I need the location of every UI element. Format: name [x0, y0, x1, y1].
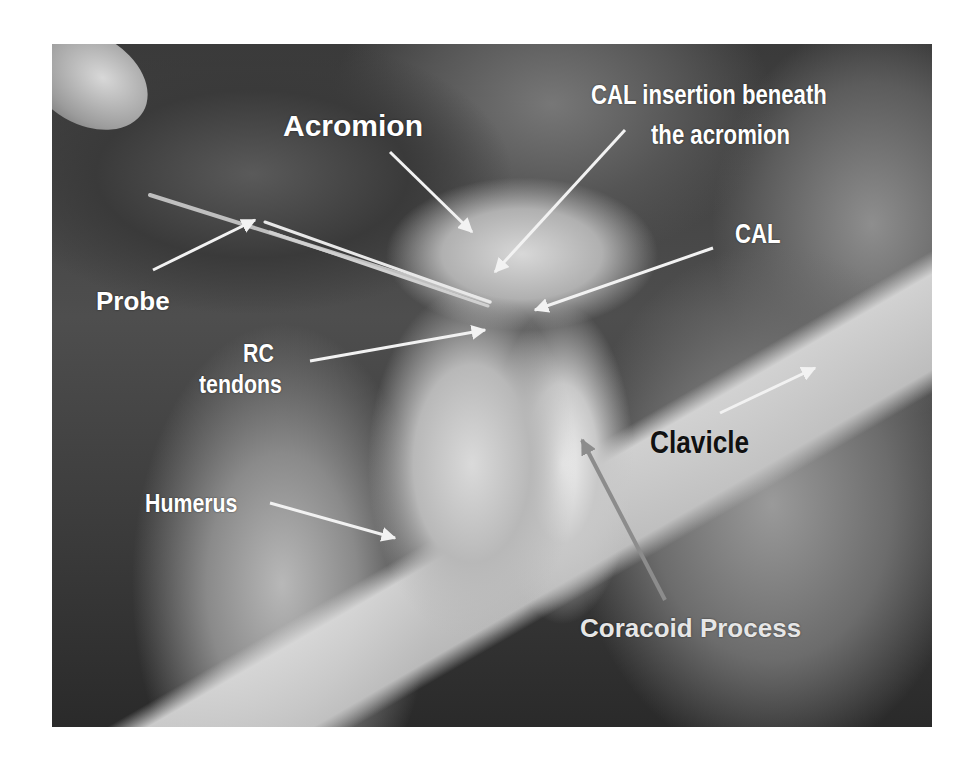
- label-cal-insertion-line2: the acromion: [651, 122, 790, 149]
- label-humerus: Humerus: [145, 490, 237, 516]
- finger-tip: [52, 44, 166, 150]
- label-clavicle: Clavicle: [650, 426, 749, 458]
- label-coracoid-process: Coracoid Process: [580, 615, 801, 641]
- label-cal: CAL: [735, 221, 781, 248]
- label-tendons: tendons: [199, 371, 282, 397]
- label-rc: RC: [243, 340, 274, 366]
- label-cal-insertion-line1: CAL insertion beneath: [591, 82, 827, 109]
- label-acromion: Acromion: [283, 111, 423, 141]
- label-probe: Probe: [96, 288, 170, 314]
